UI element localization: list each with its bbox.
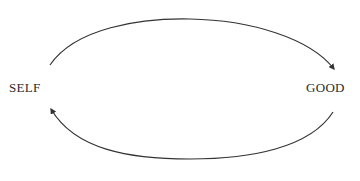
diagram-canvas: SELF GOOD bbox=[0, 0, 360, 181]
node-good-label: GOOD bbox=[306, 81, 345, 94]
node-self-label: SELF bbox=[9, 81, 41, 94]
edge-good-to-self bbox=[51, 109, 333, 159]
edge-self-to-good bbox=[50, 19, 334, 69]
